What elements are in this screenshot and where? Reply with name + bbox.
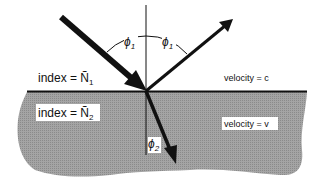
velocity-top-label: velocity = c [224,73,269,83]
reflected-ray [146,19,233,91]
index-bottom-label: index = Ñ2 [38,106,94,122]
index-top-label: index = Ñ1 [38,71,94,87]
velocity-bottom-label: velocity = v [224,119,269,129]
diagram-canvas: ϕ1 ϕ1 ϕ2 index = Ñ1 index = Ñ2 velocity … [0,0,321,192]
